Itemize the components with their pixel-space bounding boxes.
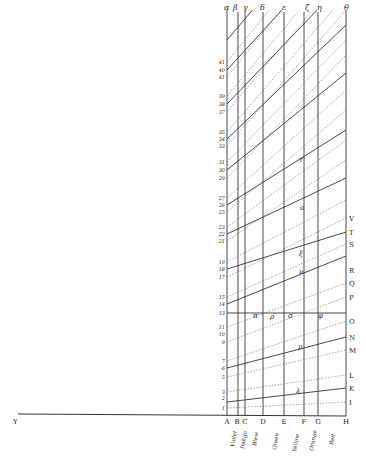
svg-text:14: 14: [219, 301, 225, 307]
svg-text:λ: λ: [295, 387, 300, 395]
svg-text:15: 15: [219, 294, 225, 300]
color-violet: Violet: [229, 429, 238, 447]
svg-text:5: 5: [222, 374, 225, 380]
svg-text:17: 17: [219, 274, 226, 280]
svg-text:O: O: [349, 318, 355, 326]
svg-text:6: 6: [222, 365, 226, 371]
svg-text:35: 35: [219, 129, 225, 135]
top-greek-labels: α β γ δ ε ζ η θ: [224, 3, 349, 12]
svg-text:27: 27: [218, 195, 226, 201]
svg-text:37: 37: [219, 109, 226, 115]
svg-text:13: 13: [219, 310, 225, 316]
svg-text:26: 26: [218, 202, 226, 208]
svg-text:V: V: [348, 215, 355, 223]
svg-text:29: 29: [218, 175, 226, 181]
svg-text:ν: ν: [299, 268, 304, 276]
svg-text:σ: σ: [288, 312, 293, 320]
svg-text:33: 33: [219, 143, 225, 149]
color-blew: Blew: [251, 431, 260, 447]
svg-text:31: 31: [219, 159, 225, 165]
svg-text:18: 18: [219, 266, 225, 272]
svg-text:μ: μ: [298, 343, 303, 351]
label-delta: δ: [260, 3, 265, 12]
svg-text:H: H: [343, 418, 349, 426]
svg-text:φ: φ: [318, 312, 323, 320]
svg-text:N: N: [349, 334, 355, 342]
color-red: Red: [328, 433, 336, 446]
right-letter-labels: V T S R Q P O N M L K I: [348, 215, 356, 407]
label-theta: θ: [344, 3, 349, 12]
svg-text:23: 23: [218, 224, 225, 230]
svg-text:K: K: [349, 385, 355, 393]
label-beta: β: [232, 3, 238, 12]
svg-text:D: D: [260, 418, 266, 426]
color-orange: Orange: [308, 429, 319, 451]
baseline-point-labels: A B C D E F G H: [223, 418, 349, 426]
svg-text:39: 39: [219, 93, 226, 99]
svg-text:I: I: [349, 399, 352, 407]
color-yellow: Yellow: [291, 433, 300, 452]
label-epsilon: ε: [282, 3, 286, 12]
svg-text:25: 25: [218, 209, 225, 215]
label-eta: η: [317, 3, 322, 12]
svg-text:1: 1: [222, 405, 225, 411]
svg-text:ο: ο: [300, 204, 304, 212]
svg-text:22: 22: [218, 231, 225, 237]
svg-text:S: S: [349, 241, 354, 249]
svg-text:10: 10: [219, 331, 226, 337]
svg-text:7: 7: [222, 358, 226, 364]
svg-text:ρ: ρ: [269, 313, 275, 321]
svg-text:P: P: [349, 294, 354, 302]
label-zeta: ζ: [305, 3, 310, 12]
svg-text:π: π: [252, 312, 258, 320]
svg-text:F: F: [302, 418, 307, 426]
svg-text:M: M: [349, 347, 356, 355]
svg-text:34: 34: [219, 136, 225, 142]
left-number-labels: 1 2 3 5 6 7 9 10 11 13 14 15 17 18 19 21…: [218, 59, 226, 411]
svg-text:L: L: [349, 372, 354, 380]
svg-text:E: E: [281, 418, 286, 426]
svg-text:41: 41: [218, 74, 225, 80]
svg-text:A: A: [223, 418, 230, 426]
svg-text:ξ: ξ: [299, 250, 304, 258]
svg-text:2: 2: [221, 395, 225, 401]
svg-text:30: 30: [219, 167, 226, 173]
newton-spectrum-diagram: Y: [0, 0, 366, 459]
svg-text:41: 41: [218, 59, 225, 65]
svg-text:B: B: [234, 418, 239, 426]
svg-text:R: R: [349, 267, 355, 275]
point-Y-label: Y: [12, 418, 18, 426]
svg-text:C: C: [242, 418, 247, 426]
svg-text:G: G: [315, 418, 321, 426]
svg-text:T: T: [349, 229, 354, 237]
label-alpha: α: [224, 3, 230, 12]
svg-text:21: 21: [218, 238, 225, 244]
label-gamma: γ: [243, 3, 248, 12]
svg-text:40: 40: [218, 67, 226, 73]
svg-text:11: 11: [219, 324, 225, 330]
svg-text:38: 38: [219, 101, 225, 107]
baseline: [18, 414, 346, 416]
color-labels: Violet Indigo Blew Green Yellow Orange R…: [229, 429, 336, 452]
svg-text:Q: Q: [349, 280, 355, 288]
svg-text:τ: τ: [299, 156, 303, 164]
svg-text:3: 3: [222, 389, 225, 395]
color-green: Green: [271, 432, 280, 450]
svg-text:19: 19: [219, 259, 226, 265]
svg-text:9: 9: [222, 339, 226, 345]
color-indigo: Indigo: [239, 430, 249, 450]
